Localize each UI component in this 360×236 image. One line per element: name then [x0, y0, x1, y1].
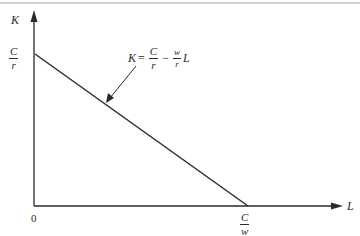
y-intercept-numerator: C — [9, 46, 18, 59]
term2-denominator: r — [175, 59, 179, 69]
diagram-canvas — [0, 0, 360, 236]
equation-var: L — [183, 51, 190, 66]
equation-term1: C r — [149, 46, 158, 71]
equation-minus: − — [162, 51, 169, 66]
y-intercept-denominator: r — [12, 59, 16, 71]
term2-numerator: w — [173, 48, 181, 59]
equation-equals: = — [138, 51, 145, 66]
equation-lhs: K — [128, 51, 136, 66]
x-intercept-denominator: w — [241, 225, 248, 236]
term1-denominator: r — [151, 59, 155, 71]
x-intercept-label: C w — [240, 212, 249, 236]
term1-numerator: C — [149, 46, 158, 59]
budget-equation: K = C r − w r L — [128, 46, 190, 71]
x-intercept-numerator: C — [240, 212, 249, 225]
y-intercept-label: C r — [9, 46, 18, 71]
x-axis-label: L — [347, 200, 354, 212]
origin-label: 0 — [31, 212, 37, 224]
y-axis-arrow-icon — [31, 10, 38, 22]
x-axis-arrow-icon — [331, 203, 343, 210]
budget-line — [35, 54, 248, 206]
equation-term2: w r — [173, 48, 181, 69]
y-axis-label: K — [11, 14, 19, 26]
